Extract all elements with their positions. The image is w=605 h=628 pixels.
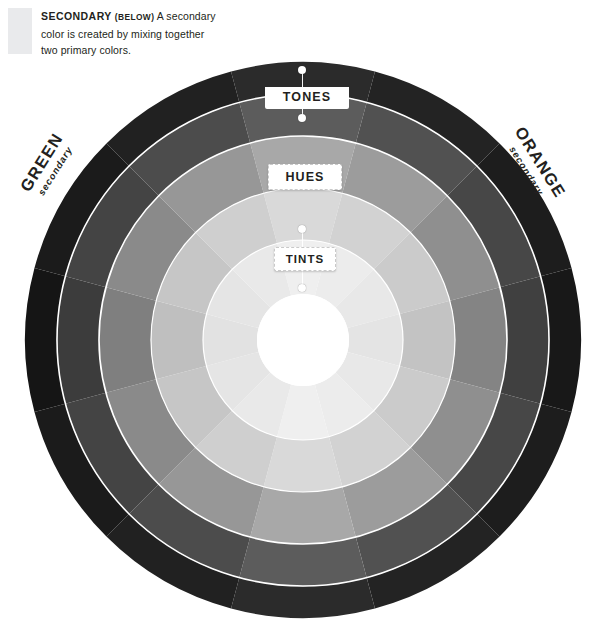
wheel-segment-r2-s3[interactable] [450, 287, 507, 393]
wheel-segment-r1-s6[interactable] [264, 437, 343, 492]
banner-tones[interactable]: TONES [265, 84, 349, 109]
tints-pin-top [298, 225, 306, 233]
wheel-segment-r1-s9[interactable] [151, 301, 206, 380]
tones-pin-bottom [298, 114, 306, 122]
wheel-segment-r1-s3[interactable] [400, 301, 455, 380]
banner-tints[interactable]: TINTS [274, 247, 336, 271]
tints-pin-bottom [298, 284, 306, 292]
wheel-segment-r2-s9[interactable] [99, 287, 156, 393]
tones-pin-top [298, 66, 306, 74]
banner-hues[interactable]: HUES [268, 164, 342, 190]
wheel-center-hole [257, 294, 349, 386]
wheel-segment-r1-s0[interactable] [264, 188, 343, 243]
wheel-segment-r2-s6[interactable] [250, 487, 356, 544]
